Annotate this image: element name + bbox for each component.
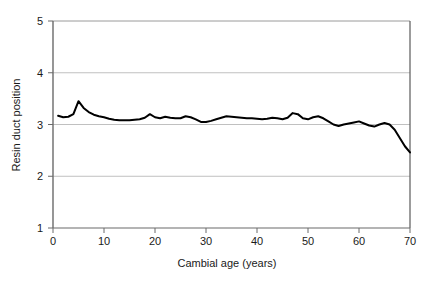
x-tick-label-20: 20 — [149, 235, 161, 247]
y-tick-label-4: 4 — [37, 67, 43, 79]
y-axis-tick-labels: 5 4 3 2 1 — [37, 15, 43, 234]
y-tick-label-1: 1 — [37, 222, 43, 234]
y-axis-ticks — [48, 21, 53, 228]
x-tick-label-50: 50 — [302, 235, 314, 247]
y-tick-label-2: 2 — [37, 170, 43, 182]
x-tick-label-0: 0 — [50, 235, 56, 247]
y-axis-title: Resin duct position — [10, 79, 22, 172]
x-tick-label-10: 10 — [98, 235, 110, 247]
x-axis-ticks — [53, 228, 410, 233]
y-tick-label-3: 3 — [37, 119, 43, 131]
chart-figure: 5 4 3 2 1 0 10 20 30 40 50 60 70 — [0, 0, 440, 286]
x-axis-title: Cambial age (years) — [177, 257, 276, 269]
y-tick-label-5: 5 — [37, 15, 43, 27]
resin-duct-line-chart: 5 4 3 2 1 0 10 20 30 40 50 60 70 — [0, 0, 440, 286]
x-tick-label-40: 40 — [251, 235, 263, 247]
x-axis-tick-labels: 0 10 20 30 40 50 60 70 — [50, 235, 416, 247]
x-tick-label-70: 70 — [404, 235, 416, 247]
x-tick-label-30: 30 — [200, 235, 212, 247]
x-tick-label-60: 60 — [353, 235, 365, 247]
